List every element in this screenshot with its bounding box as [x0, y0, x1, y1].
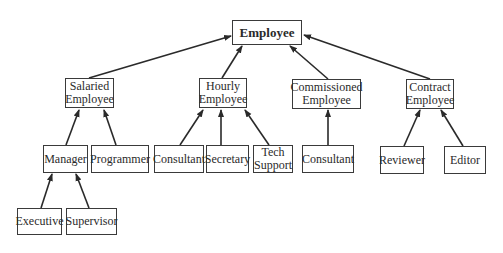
node-contract-employee: Contract Employee	[406, 79, 454, 109]
edge-editor-contract	[441, 110, 463, 146]
edge-manager-salaried	[66, 110, 79, 145]
node-label: Contract Employee	[406, 81, 455, 107]
edge-commissioned-employee	[290, 46, 328, 79]
node-label: Tech Support	[254, 146, 292, 172]
edge-contract-employee	[304, 35, 430, 79]
edge-techsupport-hourly	[245, 110, 269, 145]
node-manager: Manager	[43, 145, 88, 173]
node-label: Programmer	[90, 153, 150, 166]
node-commissioned-employee: Commissioned Employee	[292, 79, 361, 109]
node-label: Salaried Employee	[65, 80, 114, 106]
node-hourly-employee: Hourly Employee	[199, 78, 247, 108]
node-salaried-employee: Salaried Employee	[65, 78, 114, 108]
node-label: Hourly Employee	[199, 80, 248, 106]
node-label: Editor	[450, 154, 480, 167]
node-consultant-commissioned: Consultant	[302, 145, 354, 173]
node-label: Consultant	[302, 153, 354, 166]
edge-salaried-employee	[89, 36, 231, 78]
node-label: Secretary	[205, 153, 250, 166]
node-label: Commissioned Employee	[291, 81, 363, 107]
node-label: Reviewer	[379, 154, 425, 167]
node-supervisor: Supervisor	[66, 208, 117, 235]
edge-executive-manager	[41, 174, 52, 208]
node-label: Executive	[16, 215, 64, 228]
edge-programmer-salaried	[104, 110, 116, 145]
node-secretary: Secretary	[206, 145, 249, 173]
node-reviewer: Reviewer	[380, 146, 424, 174]
edge-consultant-hourly	[180, 110, 203, 145]
node-label: Consultant	[153, 153, 205, 166]
node-employee: Employee	[232, 20, 302, 45]
node-tech-support: Tech Support	[253, 145, 293, 173]
node-editor: Editor	[444, 146, 486, 174]
node-executive: Executive	[17, 208, 62, 235]
node-label: Supervisor	[66, 215, 118, 228]
node-label: Manager	[44, 153, 87, 166]
edge-supervisor-manager	[76, 174, 89, 208]
edge-hourly-employee	[222, 46, 242, 78]
node-consultant-hourly: Consultant	[154, 145, 204, 173]
edge-reviewer-contract	[404, 110, 420, 146]
node-programmer: Programmer	[91, 145, 149, 173]
node-label: Employee	[240, 26, 295, 39]
